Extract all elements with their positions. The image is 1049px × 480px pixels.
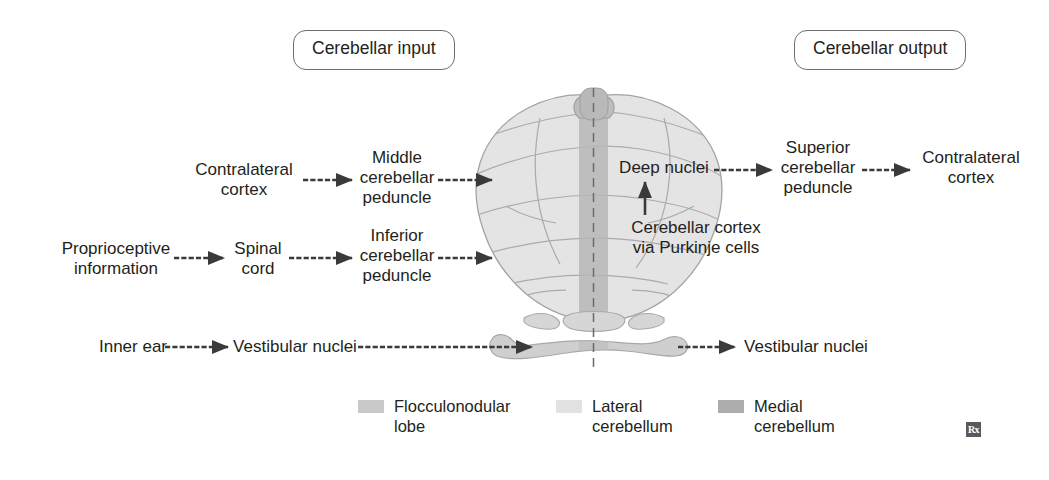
legend-swatch-medial-cerebellum bbox=[718, 400, 744, 413]
label-middle-cerebellar-peduncle: Middle cerebellar peduncle bbox=[352, 148, 442, 208]
header-cerebellar-input: Cerebellar input bbox=[293, 30, 455, 70]
legend-swatch-flocculonodular-lobe bbox=[358, 400, 384, 413]
label-vestibular-nuclei-input: Vestibular nuclei bbox=[229, 337, 361, 357]
legend-item-flocculonodular-lobe: Flocculonodular lobe bbox=[358, 397, 510, 437]
figure-canvas: Cerebellar input Cerebellar output Contr… bbox=[0, 0, 1049, 480]
label-proprioceptive-information: Proprioceptive information bbox=[56, 239, 176, 279]
legend-item-medial-cerebellum: Medial cerebellum bbox=[718, 397, 835, 437]
label-superior-cerebellar-peduncle: Superior cerebellar peduncle bbox=[772, 138, 864, 198]
legend-label-lateral-cerebellum: Lateral cerebellum bbox=[592, 397, 673, 437]
label-inner-ear: Inner ear bbox=[98, 337, 168, 357]
label-contralateral-cortex-input: Contralateral cortex bbox=[185, 160, 303, 200]
legend-item-lateral-cerebellum: Lateral cerebellum bbox=[556, 397, 673, 437]
legend-label-flocculonodular-lobe: Flocculonodular lobe bbox=[394, 397, 510, 437]
legend-swatch-lateral-cerebellum bbox=[556, 400, 582, 413]
rx-watermark-icon: Rx bbox=[966, 422, 981, 437]
label-deep-nuclei: Deep nuclei bbox=[616, 158, 712, 178]
label-inferior-cerebellar-peduncle: Inferior cerebellar peduncle bbox=[352, 226, 442, 286]
label-cerebellar-cortex-purkinje: Cerebellar cortex via Purkinje cells bbox=[610, 218, 782, 258]
label-vestibular-nuclei-output: Vestibular nuclei bbox=[740, 337, 872, 357]
legend-label-medial-cerebellum: Medial cerebellum bbox=[754, 397, 835, 437]
label-contralateral-cortex-output: Contralateral cortex bbox=[912, 148, 1030, 188]
header-cerebellar-output: Cerebellar output bbox=[794, 30, 966, 70]
label-spinal-cord: Spinal cord bbox=[226, 239, 290, 279]
cerebellum-body bbox=[472, 86, 730, 334]
